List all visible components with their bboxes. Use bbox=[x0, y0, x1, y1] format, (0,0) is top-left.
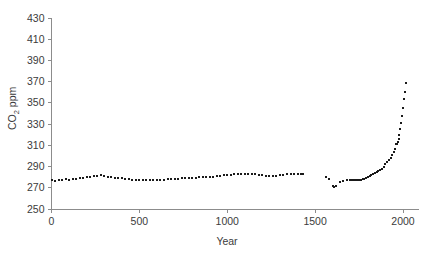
x-tick-label: 1500 bbox=[303, 215, 327, 227]
y-tick-label: 430 bbox=[27, 12, 45, 24]
data-point bbox=[138, 179, 140, 181]
data-point bbox=[216, 175, 218, 177]
data-point bbox=[124, 178, 126, 180]
data-point bbox=[290, 173, 292, 175]
data-point bbox=[82, 177, 84, 179]
data-point bbox=[177, 178, 179, 180]
data-point bbox=[351, 179, 353, 181]
data-point bbox=[68, 179, 70, 181]
data-point bbox=[96, 175, 98, 177]
data-point bbox=[401, 115, 403, 117]
data-point bbox=[404, 91, 406, 93]
data-point bbox=[58, 179, 60, 181]
data-point bbox=[372, 173, 374, 175]
data-point bbox=[390, 157, 392, 159]
data-point bbox=[358, 179, 360, 181]
data-point bbox=[356, 179, 358, 181]
data-point bbox=[152, 179, 154, 181]
x-tick-label: 1000 bbox=[216, 215, 240, 227]
data-point bbox=[374, 172, 376, 174]
data-point bbox=[399, 128, 401, 130]
data-point bbox=[191, 177, 193, 179]
data-point bbox=[362, 178, 364, 180]
x-axis-title: Year bbox=[216, 235, 238, 247]
data-point bbox=[383, 166, 385, 168]
data-point bbox=[388, 159, 390, 161]
data-point bbox=[121, 177, 123, 179]
data-point bbox=[212, 176, 214, 178]
data-point bbox=[131, 179, 133, 181]
data-point bbox=[325, 176, 327, 178]
data-point bbox=[332, 185, 334, 187]
data-point bbox=[346, 179, 348, 181]
y-axis-ticks: 250270290310330350370390410430 bbox=[27, 12, 52, 215]
data-point bbox=[114, 177, 116, 179]
data-point bbox=[128, 178, 130, 180]
y-tick-label: 250 bbox=[27, 203, 45, 215]
data-point bbox=[209, 176, 211, 178]
data-point bbox=[135, 179, 137, 181]
data-point bbox=[86, 176, 88, 178]
data-point bbox=[159, 179, 161, 181]
data-point bbox=[367, 176, 369, 178]
data-point bbox=[394, 148, 396, 150]
y-tick-label: 330 bbox=[27, 118, 45, 130]
data-point bbox=[376, 171, 378, 173]
svg-text:CO2 ppm: CO2 ppm bbox=[6, 86, 21, 130]
y-tick-label: 370 bbox=[27, 75, 45, 87]
x-tick-label: 500 bbox=[131, 215, 149, 227]
y-tick-label: 410 bbox=[27, 33, 45, 45]
data-point bbox=[247, 173, 249, 175]
data-point bbox=[107, 176, 109, 178]
x-axis-ticks: 0500100015002000 bbox=[49, 209, 415, 227]
data-point bbox=[258, 174, 260, 176]
data-point bbox=[205, 176, 207, 178]
data-point bbox=[335, 185, 337, 187]
co2-chart-figure: 250270290310330350370390410430 050010001… bbox=[0, 0, 430, 258]
data-point bbox=[302, 173, 304, 175]
data-point bbox=[405, 82, 407, 84]
data-point bbox=[379, 169, 381, 171]
y-axis-title: CO2 ppm bbox=[6, 86, 21, 130]
data-point bbox=[145, 179, 147, 181]
data-point bbox=[237, 173, 239, 175]
y-tick-label: 310 bbox=[27, 139, 45, 151]
data-point bbox=[167, 178, 169, 180]
data-point bbox=[381, 168, 383, 170]
data-point bbox=[365, 177, 367, 179]
data-point bbox=[65, 178, 67, 180]
data-point bbox=[202, 176, 204, 178]
data-point bbox=[360, 179, 362, 181]
data-point bbox=[198, 176, 200, 178]
data-point bbox=[300, 173, 302, 175]
data-point bbox=[398, 134, 400, 136]
data-point bbox=[240, 173, 242, 175]
y-axis-title-main: CO bbox=[6, 114, 18, 130]
data-point bbox=[100, 174, 102, 176]
data-point bbox=[195, 177, 197, 179]
data-point bbox=[174, 178, 176, 180]
data-point bbox=[79, 177, 81, 179]
data-point bbox=[230, 174, 232, 176]
data-point bbox=[355, 179, 357, 181]
data-point bbox=[293, 173, 295, 175]
data-point bbox=[254, 173, 256, 175]
data-point bbox=[275, 175, 277, 177]
data-point bbox=[226, 174, 228, 176]
data-point bbox=[149, 179, 151, 181]
data-point bbox=[391, 154, 393, 156]
data-point-series bbox=[51, 82, 407, 188]
data-point bbox=[61, 179, 63, 181]
data-point bbox=[272, 175, 274, 177]
data-point bbox=[282, 174, 284, 176]
data-point bbox=[297, 173, 299, 175]
data-point bbox=[89, 176, 91, 178]
data-point bbox=[333, 186, 335, 188]
data-point bbox=[170, 178, 172, 180]
data-point bbox=[369, 175, 371, 177]
data-point bbox=[184, 177, 186, 179]
data-point bbox=[393, 151, 395, 153]
data-point bbox=[398, 138, 400, 140]
data-point bbox=[396, 143, 398, 145]
data-point bbox=[279, 174, 281, 176]
